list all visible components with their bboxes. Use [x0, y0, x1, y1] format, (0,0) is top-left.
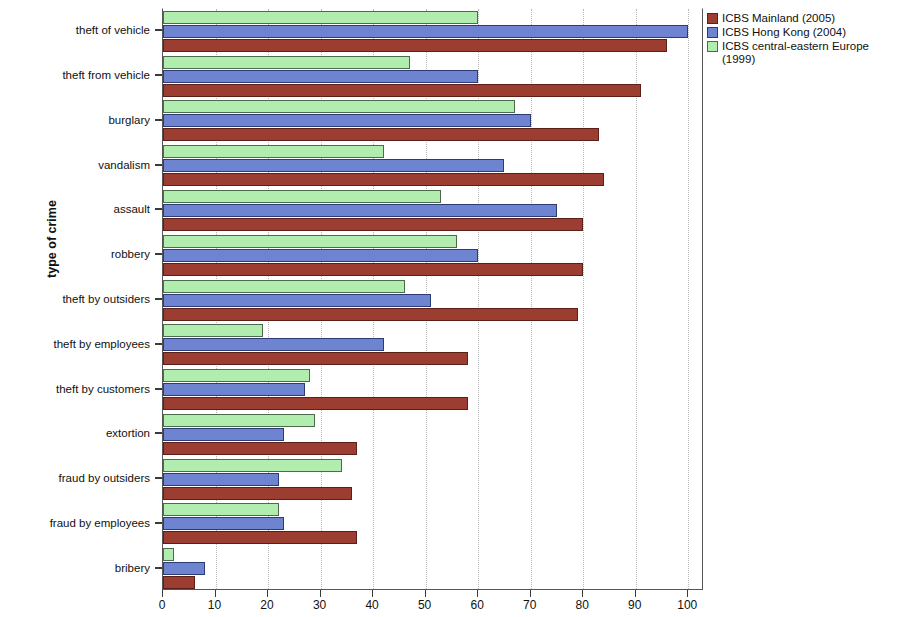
bar [163, 159, 504, 172]
y-axis-tick-label: theft by outsiders [62, 293, 150, 305]
legend-item: ICBS Mainland (2005) [707, 12, 903, 25]
y-axis-tick-label: extortion [106, 427, 150, 439]
bar [163, 562, 205, 575]
bar [163, 487, 352, 500]
bar [163, 70, 478, 83]
y-axis-tick [155, 522, 162, 524]
y-axis-tick [155, 567, 162, 569]
legend: ICBS Mainland (2005)ICBS Hong Kong (2004… [707, 12, 903, 67]
bar-group [163, 235, 702, 276]
bar-group [163, 11, 702, 52]
x-axis-tick [582, 590, 583, 597]
x-axis-tick [215, 590, 216, 597]
x-axis-tick [635, 590, 636, 597]
x-axis-tick [267, 590, 268, 597]
x-axis-tick-label: 20 [260, 598, 273, 612]
y-axis-tick-label: theft by employees [53, 338, 150, 350]
x-axis-tick [320, 590, 321, 597]
x-axis-tick [162, 590, 163, 597]
bar [163, 383, 305, 396]
y-axis-tick [155, 388, 162, 390]
x-axis-tick-label: 10 [208, 598, 221, 612]
legend-item: ICBS central-eastern Europe (1999) [707, 40, 903, 66]
legend-swatch-icon [707, 41, 718, 52]
x-axis-tick [477, 590, 478, 597]
bar [163, 280, 405, 293]
x-axis-tick-label: 50 [418, 598, 431, 612]
bar [163, 145, 384, 158]
plot-area [162, 8, 703, 590]
bar-group [163, 100, 702, 141]
y-axis-tick [155, 119, 162, 121]
bar-group [163, 548, 702, 589]
y-axis-tick [155, 74, 162, 76]
bar [163, 100, 515, 113]
y-axis-tick-label: assault [114, 203, 150, 215]
y-axis-tick [155, 164, 162, 166]
y-axis-tick-label: theft from vehicle [62, 69, 150, 81]
bar [163, 25, 688, 38]
y-axis-tick [155, 477, 162, 479]
y-axis-tick-label: bribery [115, 562, 150, 574]
x-axis-tick-label: 90 [628, 598, 641, 612]
x-axis-tick-label: 30 [313, 598, 326, 612]
bar [163, 324, 263, 337]
bar-group [163, 503, 702, 544]
x-axis-tick [425, 590, 426, 597]
y-axis-tick [155, 253, 162, 255]
legend-swatch-icon [707, 27, 718, 38]
legend-swatch-icon [707, 13, 718, 24]
x-axis-tick [687, 590, 688, 597]
bar-group [163, 190, 702, 231]
y-axis-labels: theft of vehicletheft from vehicleburgla… [0, 8, 162, 590]
legend-label: ICBS Mainland (2005) [722, 12, 835, 25]
bar [163, 414, 315, 427]
bar [163, 11, 478, 24]
x-axis-tick-label: 0 [159, 598, 166, 612]
bar [163, 235, 457, 248]
bar [163, 548, 174, 561]
bar [163, 517, 284, 530]
plot-inner [163, 9, 702, 589]
y-axis-tick [155, 298, 162, 300]
y-axis-tick [155, 432, 162, 434]
x-axis-tick-label: 100 [677, 598, 697, 612]
bar [163, 459, 342, 472]
bar [163, 204, 557, 217]
x-axis-tick-label: 80 [576, 598, 589, 612]
y-axis-tick-label: burglary [108, 114, 150, 126]
bar-group [163, 459, 702, 500]
bar [163, 442, 357, 455]
y-axis-tick-label: theft of vehicle [76, 24, 150, 36]
legend-label: ICBS central-eastern Europe (1999) [722, 40, 903, 66]
bar [163, 473, 279, 486]
y-axis-tick [155, 208, 162, 210]
bar-group [163, 324, 702, 365]
x-axis-tick [530, 590, 531, 597]
bar [163, 576, 195, 589]
bar [163, 84, 641, 97]
bar [163, 352, 468, 365]
x-axis-tick [372, 590, 373, 597]
y-axis-tick-label: fraud by employees [50, 517, 150, 529]
bar [163, 173, 604, 186]
bar [163, 128, 599, 141]
bar [163, 56, 410, 69]
bar [163, 218, 583, 231]
bar [163, 263, 583, 276]
bar [163, 531, 357, 544]
bar [163, 397, 468, 410]
bar [163, 294, 431, 307]
bar [163, 114, 531, 127]
y-axis-tick-label: vandalism [98, 159, 150, 171]
bar-group [163, 369, 702, 410]
bar [163, 39, 667, 52]
legend-item: ICBS Hong Kong (2004) [707, 26, 903, 39]
bar-group [163, 56, 702, 97]
bar [163, 428, 284, 441]
y-axis-tick-label: theft by customers [56, 383, 150, 395]
x-axis-tick-label: 40 [365, 598, 378, 612]
bar [163, 369, 310, 382]
bar [163, 338, 384, 351]
y-axis-tick [155, 29, 162, 31]
